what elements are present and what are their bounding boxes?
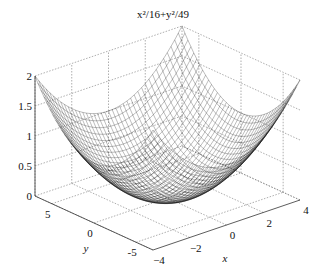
svg-text:2: 2 [27,70,33,82]
svg-text:4: 4 [303,204,309,216]
svg-text:0: 0 [87,227,93,239]
svg-text:1: 1 [27,130,33,142]
svg-text:0: 0 [230,229,236,241]
svg-text:-5: -5 [128,246,138,258]
svg-text:0: 0 [27,190,33,202]
chart-title: x²/16+y²/49 [137,8,189,20]
svg-text:0.5: 0.5 [18,160,32,172]
svg-text:1.5: 1.5 [18,100,32,112]
svg-text:5: 5 [45,208,51,220]
x-axis-label: x [222,252,228,264]
tick-labels: 00.511.52-505−4−2024 [18,70,309,266]
y-axis-label: y [83,242,89,254]
svg-text:−4: −4 [153,254,165,266]
svg-text:−2: −2 [190,242,202,254]
svg-text:2: 2 [267,217,273,229]
surface-mesh [35,26,300,204]
plot-canvas: 00.511.52-505−4−2024 x²/16+y²/49 x y [0,0,324,279]
surface-plot: 00.511.52-505−4−2024 x²/16+y²/49 x y [0,0,324,279]
